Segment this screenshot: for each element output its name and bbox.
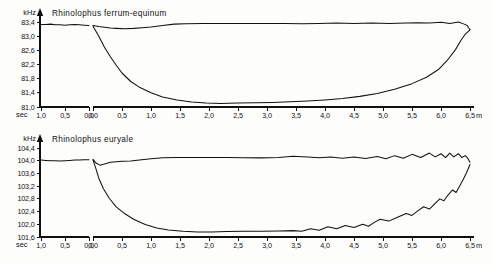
spectrogram-figure: 83,483,082,682,281,881,481,01,00,50,00,0…: [0, 0, 492, 264]
data-curve-1: [93, 153, 470, 165]
y-axis-arrow-icon: [37, 134, 43, 142]
data-curve-0: [41, 24, 89, 25]
x-axis-tick-label-right: 5,0: [378, 241, 388, 250]
x-axis-tick-label-right: 5,5: [407, 241, 417, 250]
y-axis-tick-label: 102,8: [18, 194, 35, 203]
data-curve-1: [93, 22, 470, 30]
x-axis-tick-label-right: 4,0: [320, 111, 330, 120]
x-axis-tick-label-right: 0,5: [117, 111, 127, 120]
y-axis-unit-label: kHz: [23, 8, 36, 17]
x-axis-tick-label-right: 3,0: [262, 241, 272, 250]
x-axis-tick-label-right: 0,0: [88, 241, 98, 250]
x-axis-unit-label-m: m: [476, 241, 482, 250]
x-axis-tick-label-right: 2,0: [204, 111, 214, 120]
y-axis-tick-label: 81,8: [21, 74, 34, 83]
x-axis-tick-label-right: 4,5: [349, 241, 359, 250]
x-axis-tick-label-right: 4,5: [349, 111, 359, 120]
x-axis-tick-label-right: 1,0: [146, 241, 156, 250]
y-axis-tick-label: 103,6: [18, 169, 35, 178]
x-axis-tick-label-right: 6,0: [436, 241, 446, 250]
y-axis-arrow-icon: [37, 8, 43, 16]
x-axis-tick-label-right: 4,0: [320, 241, 330, 250]
x-axis-tick-label-right: 3,0: [262, 111, 272, 120]
y-axis-tick-label: 104,0: [18, 156, 35, 165]
y-axis-unit-label: kHz: [23, 134, 36, 143]
x-axis-tick-label-left: 0,5: [60, 111, 70, 120]
chart-panel-ferrum-equinum: 83,483,082,682,281,881,481,01,00,50,00,0…: [0, 0, 492, 132]
data-curve-0: [41, 160, 89, 161]
y-axis-tick-label: 81,4: [21, 88, 34, 97]
x-axis-tick-label-right: 0,0: [88, 111, 98, 120]
x-axis-tick-label-right: 2,5: [233, 111, 243, 120]
y-axis-tick-label: 83,4: [21, 18, 34, 27]
chart-svg-ferrum-equinum: 83,483,082,682,281,881,481,01,00,50,00,0…: [0, 0, 492, 132]
x-axis-tick-label-right: 2,0: [204, 241, 214, 250]
x-axis-tick-label-right: 1,0: [146, 111, 156, 120]
data-curve-2: [93, 160, 470, 232]
x-axis-tick-label-right: 6,5: [465, 111, 475, 120]
y-axis-tick-label: 103,2: [18, 182, 35, 191]
x-axis-tick-label-right: 6,0: [436, 111, 446, 120]
x-axis-unit-label-sec: sec: [16, 240, 28, 249]
x-axis-tick-label-right: 5,0: [378, 111, 388, 120]
chart-title: Rhinolophus euryale: [52, 135, 133, 144]
y-axis-tick-label: 82,2: [21, 60, 34, 69]
x-axis-tick-label-right: 2,5: [233, 241, 243, 250]
x-axis-unit-label-m: m: [476, 111, 482, 120]
x-axis-tick-label-left: 1,0: [36, 241, 46, 250]
x-axis-unit-label-sec: sec: [16, 110, 28, 119]
x-axis-tick-label-left: 0,5: [60, 241, 70, 250]
x-axis-tick-label-right: 3,5: [291, 111, 301, 120]
x-axis-tick-label-right: 6,5: [465, 241, 475, 250]
chart-title: Rhinolophus ferrum-equinum: [52, 9, 167, 18]
x-axis-tick-label-right: 1,5: [175, 111, 185, 120]
chart-panel-euryale: 104,4104,0103,6103,2102,8102,4102,0101,6…: [0, 128, 492, 264]
x-axis-tick-label-left: 1,0: [36, 111, 46, 120]
y-axis-tick-label: 83,0: [21, 32, 34, 41]
x-axis-tick-label-right: 3,5: [291, 241, 301, 250]
x-axis-tick-label-right: 5,5: [407, 111, 417, 120]
y-axis-tick-label: 102,0: [18, 220, 35, 229]
x-axis-tick-label-right: 0,5: [117, 241, 127, 250]
data-curve-2: [93, 26, 470, 103]
y-axis-tick-label: 82,6: [21, 46, 34, 55]
chart-svg-euryale: 104,4104,0103,6103,2102,8102,4102,0101,6…: [0, 128, 492, 264]
y-axis-tick-label: 104,4: [18, 144, 35, 153]
x-axis-tick-label-right: 1,5: [175, 241, 185, 250]
y-axis-tick-label: 102,4: [18, 207, 35, 216]
